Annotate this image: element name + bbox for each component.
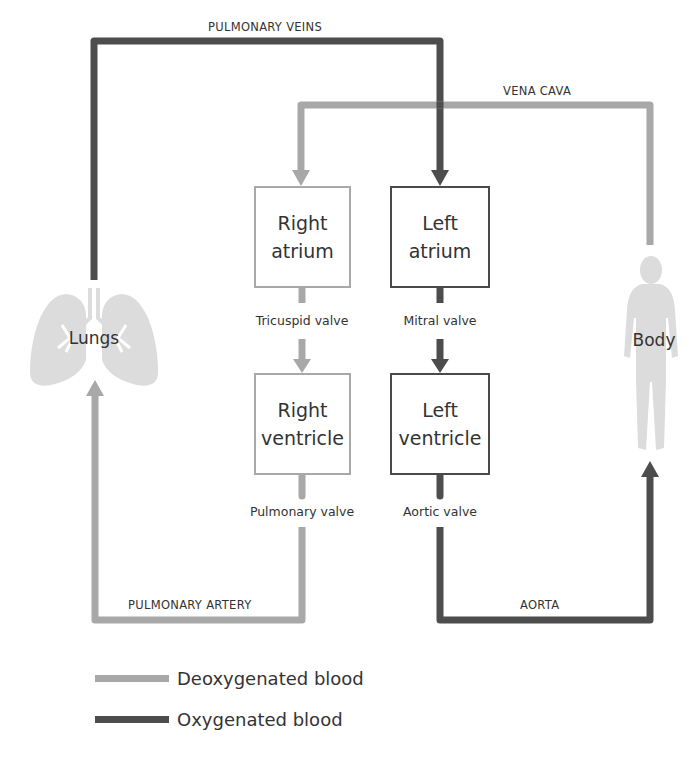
right-atrium-box: Right atrium: [254, 186, 351, 288]
mitral-valve-label: Mitral valve: [403, 313, 476, 328]
tricuspid-valve-label: Tricuspid valve: [256, 313, 349, 328]
left-ventricle-label-line2: ventricle: [399, 424, 482, 452]
lungs-label: Lungs: [69, 328, 119, 348]
arrowhead-icon: [293, 359, 311, 373]
right-ventricle-label-line1: Right: [277, 396, 327, 424]
left-ventricle-label-line1: Left: [422, 396, 458, 424]
pulmonary-artery-label: PULMONARY ARTERY: [128, 598, 252, 612]
legend-item-oxygenated: Oxygenated blood: [95, 709, 343, 730]
arrowhead-icon: [641, 461, 659, 477]
left-atrium-label-line2: atrium: [409, 237, 472, 265]
pulmonary-valve-label: Pulmonary valve: [250, 504, 354, 519]
left-atrium-box: Left atrium: [390, 186, 490, 288]
arrowhead-icon: [431, 170, 449, 186]
vena-cava-label: VENA CAVA: [503, 84, 571, 98]
right-ventricle-label-line2: ventricle: [261, 424, 344, 452]
right-ventricle-box: Right ventricle: [254, 373, 351, 475]
arrowhead-icon: [292, 170, 310, 186]
left-atrium-label-line1: Left: [422, 209, 458, 237]
pulmonary-veins-label: PULMONARY VEINS: [208, 20, 322, 34]
right-atrium-label-line2: atrium: [271, 237, 334, 265]
left-ventricle-box: Left ventricle: [390, 373, 490, 475]
legend-item-deoxygenated: Deoxygenated blood: [95, 668, 364, 689]
oxygenated-swatch-icon: [95, 716, 169, 723]
legend-label: Deoxygenated blood: [177, 668, 364, 689]
body-label: Body: [633, 330, 676, 350]
body-icon: [624, 256, 678, 450]
right-atrium-label-line1: Right: [277, 209, 327, 237]
arrowhead-icon: [431, 359, 449, 373]
aortic-valve-label: Aortic valve: [403, 504, 477, 519]
aorta-label: AORTA: [520, 598, 559, 612]
arrowhead-icon: [86, 380, 104, 396]
legend-label: Oxygenated blood: [177, 709, 343, 730]
deoxygenated-swatch-icon: [95, 675, 169, 682]
